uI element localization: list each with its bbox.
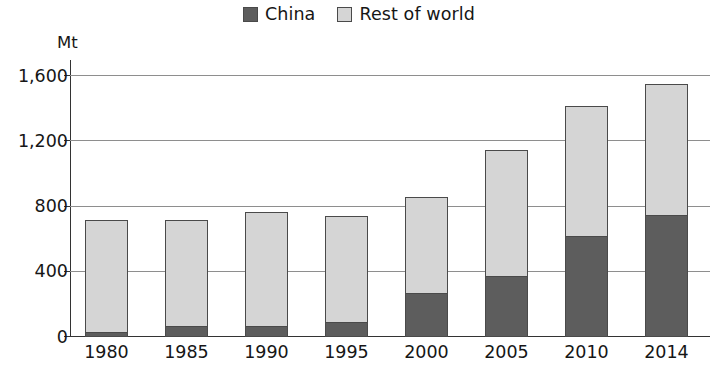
y-tick-label-400: 400 — [0, 263, 68, 281]
y-tick-label-800: 800 — [0, 198, 68, 216]
legend-swatch-icon-rest-of-world — [337, 7, 352, 22]
bar-2010[interactable] — [565, 106, 608, 337]
stacked-bar-chart: China Rest of world Mt 04008001,2001,600… — [0, 0, 718, 373]
bar-2014[interactable] — [645, 84, 688, 337]
x-tick-label-1995: 1995 — [317, 343, 376, 361]
bar-1980[interactable] — [85, 220, 128, 337]
bar-segment-china-2010[interactable] — [565, 236, 608, 337]
bar-segment-china-1985[interactable] — [165, 326, 208, 337]
legend-entry-china: China — [243, 6, 316, 23]
x-tick-label-1985: 1985 — [157, 343, 216, 361]
x-tick-label-2010: 2010 — [557, 343, 616, 361]
bar-segment-rest-of-world-2010[interactable] — [565, 106, 608, 236]
legend-label-china: China — [265, 6, 316, 23]
bar-segment-china-1995[interactable] — [325, 322, 368, 337]
legend-label-rest-of-world: Rest of world — [359, 6, 475, 23]
y-axis-unit-label: Mt — [57, 33, 78, 52]
gridline-800 — [70, 206, 710, 207]
y-tick-label-0: 0 — [0, 329, 68, 347]
bar-2000[interactable] — [405, 197, 448, 337]
gridline-1600 — [70, 75, 710, 76]
y-tick-label-1600: 1,600 — [0, 68, 68, 86]
bar-segment-china-2014[interactable] — [645, 215, 688, 337]
x-tick-label-2005: 2005 — [477, 343, 536, 361]
y-tick-label-1200: 1,200 — [0, 133, 68, 151]
legend-swatch-icon-china — [243, 7, 258, 22]
bar-segment-china-1980[interactable] — [85, 332, 128, 337]
bar-segment-rest-of-world-2005[interactable] — [485, 150, 528, 276]
bar-segment-rest-of-world-2014[interactable] — [645, 84, 688, 214]
x-tick-label-2000: 2000 — [397, 343, 456, 361]
bar-segment-rest-of-world-1990[interactable] — [245, 212, 288, 327]
bar-segment-china-2005[interactable] — [485, 276, 528, 337]
legend-entry-rest-of-world: Rest of world — [337, 6, 475, 23]
bar-segment-rest-of-world-2000[interactable] — [405, 197, 448, 293]
bar-segment-china-2000[interactable] — [405, 293, 448, 337]
bar-segment-rest-of-world-1980[interactable] — [85, 220, 128, 332]
bar-segment-china-1990[interactable] — [245, 326, 288, 337]
x-tick-label-2014: 2014 — [637, 343, 696, 361]
bar-segment-rest-of-world-1985[interactable] — [165, 220, 208, 326]
x-tick-label-1990: 1990 — [237, 343, 296, 361]
bar-1985[interactable] — [165, 220, 208, 337]
x-tick-label-1980: 1980 — [77, 343, 136, 361]
bar-2005[interactable] — [485, 150, 528, 337]
gridline-1200 — [70, 140, 710, 141]
bar-1990[interactable] — [245, 212, 288, 337]
bar-1995[interactable] — [325, 216, 368, 337]
bar-segment-rest-of-world-1995[interactable] — [325, 216, 368, 322]
plot-area: 04008001,2001,600 — [70, 60, 710, 337]
chart-legend: China Rest of world — [0, 6, 718, 23]
